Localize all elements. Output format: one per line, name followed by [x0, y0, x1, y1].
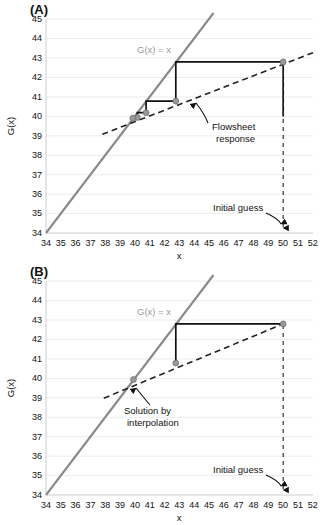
svg-text:35: 35 [56, 238, 66, 248]
solution-label-line1-b: Solution by [124, 405, 171, 416]
svg-text:40: 40 [32, 111, 42, 121]
flowsheet-callout-a [196, 103, 208, 123]
identity-line-label-b: G(x) = x [137, 306, 171, 317]
svg-text:41: 41 [32, 354, 42, 364]
svg-text:41: 41 [145, 238, 155, 248]
svg-text:46: 46 [219, 500, 229, 510]
svg-text:39: 39 [115, 500, 125, 510]
svg-text:51: 51 [293, 238, 303, 248]
svg-text:36: 36 [32, 451, 42, 461]
identity-line-a [46, 13, 214, 233]
panel-a-plot: 45 44 43 42 41 40 39 38 37 36 35 34 34 3… [0, 0, 325, 262]
svg-text:35: 35 [56, 500, 66, 510]
svg-text:46: 46 [219, 238, 229, 248]
svg-text:47: 47 [234, 500, 244, 510]
panel-b-plot: 45 44 43 42 41 40 39 38 37 36 35 34 34 3… [0, 262, 325, 524]
panel-a-markers [130, 59, 286, 121]
panel-a: (A) [0, 0, 325, 262]
svg-text:42: 42 [32, 72, 42, 82]
panel-b-gridlines [46, 281, 313, 476]
svg-text:43: 43 [174, 500, 184, 510]
svg-text:50: 50 [278, 500, 288, 510]
panel-b-x-ticklabels: 34 35 36 37 38 39 40 41 42 43 44 45 46 4… [41, 500, 318, 510]
svg-text:45: 45 [204, 238, 214, 248]
svg-text:52: 52 [308, 500, 318, 510]
panel-b-y-axis-title: G(x) [5, 379, 16, 397]
svg-text:34: 34 [32, 490, 42, 500]
svg-text:40: 40 [130, 500, 140, 510]
svg-text:37: 37 [32, 170, 42, 180]
svg-text:48: 48 [248, 500, 258, 510]
svg-text:42: 42 [159, 500, 169, 510]
svg-text:36: 36 [71, 238, 81, 248]
svg-text:39: 39 [32, 131, 42, 141]
svg-text:41: 41 [145, 500, 155, 510]
svg-text:36: 36 [32, 189, 42, 199]
svg-text:35: 35 [32, 208, 42, 218]
solution-label-line2-b: interpolation [127, 417, 179, 428]
svg-text:38: 38 [100, 238, 110, 248]
svg-text:39: 39 [32, 393, 42, 403]
svg-text:43: 43 [174, 238, 184, 248]
substitution-step-b [176, 324, 283, 363]
figure-container: (A) [0, 0, 325, 525]
svg-text:51: 51 [293, 500, 303, 510]
flowsheet-response-label-line1-a: Flowsheet [212, 121, 256, 132]
initial-guess-label-a: Initial guess [213, 202, 263, 213]
svg-text:45: 45 [204, 500, 214, 510]
svg-text:34: 34 [41, 500, 51, 510]
panel-b-y-ticklabels: 45 44 43 42 41 40 39 38 37 36 35 34 [32, 276, 42, 500]
svg-text:42: 42 [32, 334, 42, 344]
svg-text:49: 49 [263, 500, 273, 510]
svg-text:42: 42 [159, 238, 169, 248]
svg-text:48: 48 [248, 238, 258, 248]
svg-text:49: 49 [263, 238, 273, 248]
panel-a-y-axis-title: G(x) [5, 117, 16, 135]
svg-text:37: 37 [85, 238, 95, 248]
svg-text:40: 40 [32, 373, 42, 383]
svg-text:50: 50 [278, 238, 288, 248]
svg-text:45: 45 [32, 276, 42, 286]
svg-text:43: 43 [32, 315, 42, 325]
flowsheet-response-label-line2-a: response [216, 133, 255, 144]
panel-a-x-axis-title: x [177, 250, 182, 261]
svg-text:39: 39 [115, 238, 125, 248]
identity-line-b [46, 275, 214, 495]
svg-text:47: 47 [234, 238, 244, 248]
panel-a-y-ticklabels: 45 44 43 42 41 40 39 38 37 36 35 34 [32, 14, 42, 238]
svg-text:38: 38 [100, 500, 110, 510]
svg-text:34: 34 [32, 228, 42, 238]
panel-a-x-ticklabels: 34 35 36 37 38 39 40 41 42 43 44 45 46 4… [41, 238, 318, 248]
svg-text:38: 38 [32, 150, 42, 160]
svg-text:44: 44 [189, 500, 199, 510]
svg-text:44: 44 [32, 295, 42, 305]
svg-text:43: 43 [32, 53, 42, 63]
svg-text:34: 34 [41, 238, 51, 248]
svg-text:44: 44 [32, 33, 42, 43]
initial-guess-label-b: Initial guess [213, 464, 263, 475]
svg-text:52: 52 [308, 238, 318, 248]
initial-guess-callout-b [266, 475, 281, 486]
svg-text:41: 41 [32, 92, 42, 102]
panel-b: (B) [0, 262, 325, 524]
panel-a-gridlines [46, 19, 313, 214]
svg-text:40: 40 [130, 238, 140, 248]
svg-text:44: 44 [189, 238, 199, 248]
svg-text:37: 37 [85, 500, 95, 510]
identity-line-label-a: G(x) = x [137, 44, 171, 55]
interpolation-secant-b [104, 324, 283, 398]
svg-text:45: 45 [32, 14, 42, 24]
panel-b-x-axis-title: x [177, 512, 182, 523]
solution-callout-b [136, 388, 150, 405]
svg-text:37: 37 [32, 432, 42, 442]
svg-text:38: 38 [32, 412, 42, 422]
svg-text:35: 35 [32, 470, 42, 480]
svg-text:36: 36 [71, 500, 81, 510]
initial-guess-callout-a [266, 213, 281, 224]
